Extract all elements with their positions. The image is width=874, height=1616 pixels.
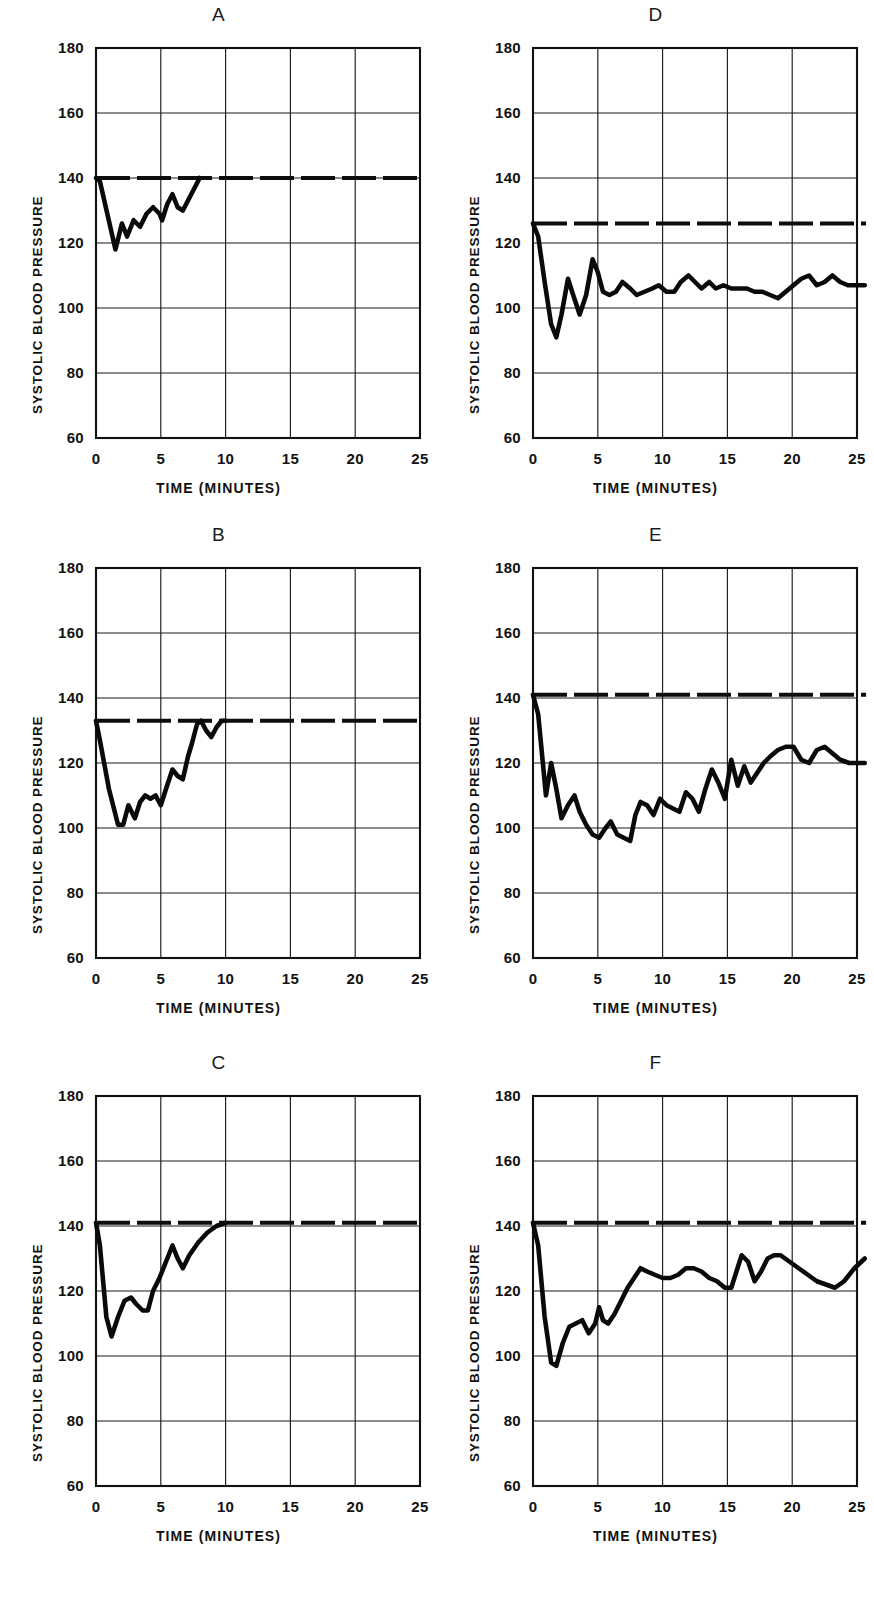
data-line-e bbox=[533, 695, 865, 841]
plot-area-d bbox=[437, 0, 874, 538]
data-line-d bbox=[533, 224, 865, 338]
panel-d: DSYSTOLIC BLOOD PRESSURE1801601401201008… bbox=[437, 0, 874, 538]
figure-panel-grid: ASYSTOLIC BLOOD PRESSURE1801601401201008… bbox=[0, 0, 874, 1616]
panel-c: CSYSTOLIC BLOOD PRESSURE1801601401201008… bbox=[0, 1048, 437, 1586]
plot-area-a bbox=[0, 0, 437, 538]
plot-area-e bbox=[437, 520, 874, 1058]
plot-area-b bbox=[0, 520, 437, 1058]
panel-a: ASYSTOLIC BLOOD PRESSURE1801601401201008… bbox=[0, 0, 437, 538]
panel-b: BSYSTOLIC BLOOD PRESSURE1801601401201008… bbox=[0, 520, 437, 1058]
panel-f: FSYSTOLIC BLOOD PRESSURE1801601401201008… bbox=[437, 1048, 874, 1586]
plot-area-f bbox=[437, 1048, 874, 1586]
panel-e: ESYSTOLIC BLOOD PRESSURE1801601401201008… bbox=[437, 520, 874, 1058]
plot-area-c bbox=[0, 1048, 437, 1586]
data-line-f bbox=[533, 1223, 865, 1366]
data-line-a bbox=[96, 178, 200, 250]
